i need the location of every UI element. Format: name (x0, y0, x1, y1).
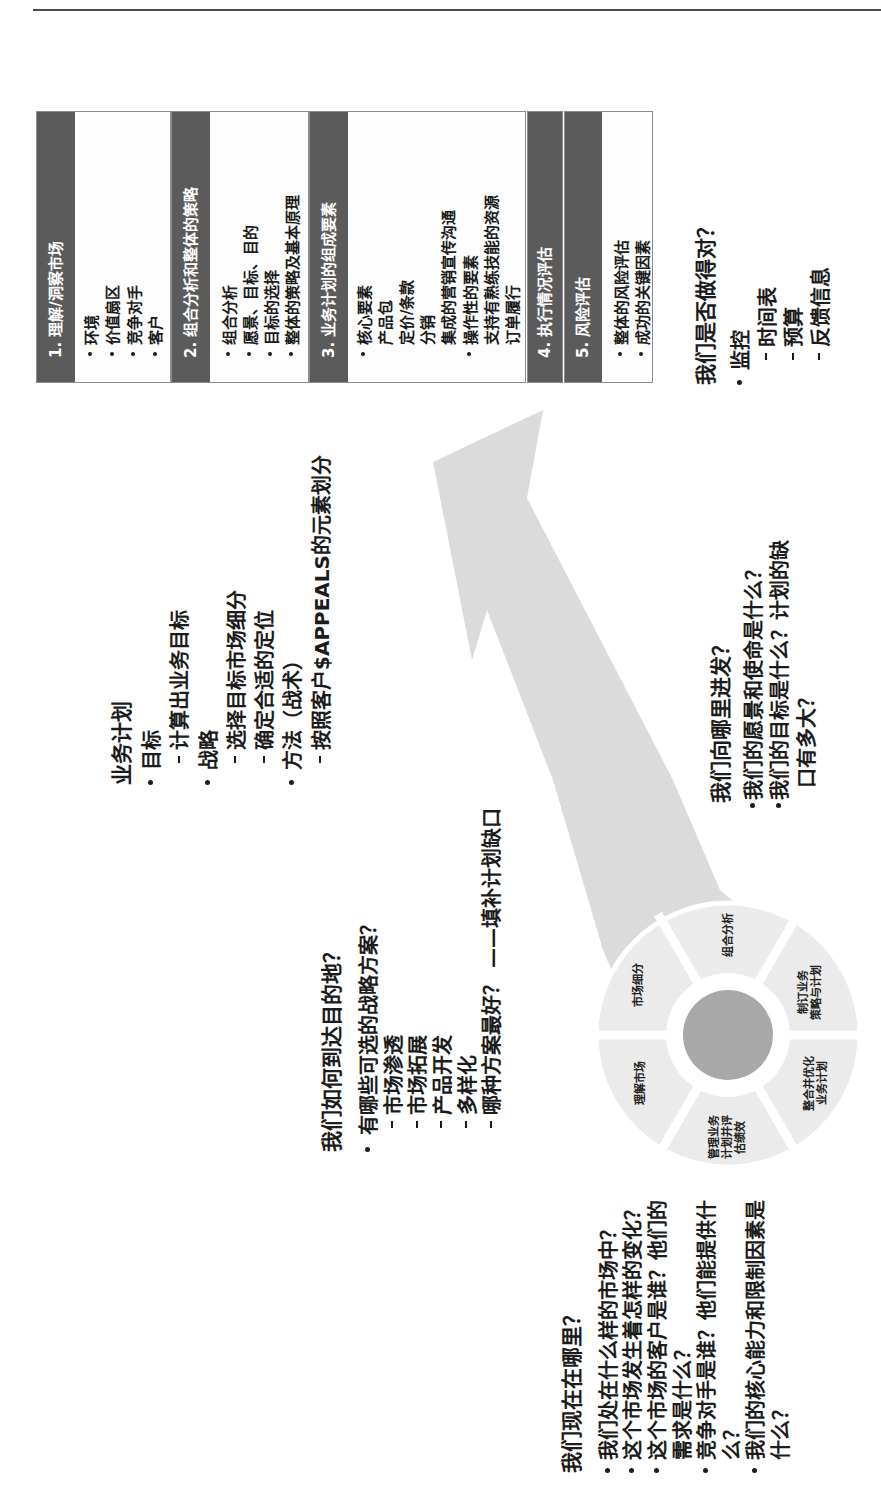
item-text: 我们的愿景和使命是什么？ (738, 560, 767, 800)
question-list: 我们的愿景和使命是什么？ 我们的目标是什么？计划的缺 口有多大？ (739, 540, 819, 808)
sub-item: 确定合适的定位 (249, 455, 277, 785)
sub-item: 市场拓展 (404, 808, 429, 1152)
where-are-we-now-block: 我们现在在哪里？ 我们处在什么样的市场中？ 这个市场发生着怎样的变化？ 这个市场… (560, 1200, 792, 1473)
item-text: 口有多大？ (791, 688, 820, 788)
bullet-icon (289, 352, 293, 356)
step-header: 3. 业务计划的组成要素 (310, 112, 348, 382)
bullet-icon (467, 352, 471, 356)
dash-icon (440, 1121, 442, 1128)
step-item-continuation: 分销 (416, 112, 437, 356)
rotated-figure: 组合分析 制订业务 策略与计划 整合并优化 业务计划 管理业务 计划并评 估绩效… (0, 0, 881, 1492)
dash-icon (465, 1121, 467, 1128)
bullet-icon (605, 1468, 610, 1473)
step-header: 4. 执行情况评估 (528, 112, 562, 382)
step-item: 价值扇区 (101, 112, 123, 356)
list-item: 这个市场发生着怎样的变化？ (620, 1200, 645, 1473)
step-item: 成功的关键因素 (631, 112, 652, 356)
sub-item: 按照客户$APPEALS的元素划分 (306, 455, 334, 785)
step-item: 客户 (144, 112, 166, 356)
list-item: 目标 (136, 455, 164, 785)
question-list: 有哪些可选的战略方案？ 市场渗透 市场拓展 产品开发 多样化 哪种方案最好？ —… (355, 808, 503, 1152)
bullet-icon (618, 352, 622, 356)
bullet-icon (110, 352, 114, 356)
step-header: 2. 组合分析和整体的策略 (172, 112, 210, 382)
bullet-icon (365, 1147, 370, 1152)
list-item-continuation: 口有多大？ (792, 540, 819, 808)
item-text: 方法（战术） (277, 650, 306, 770)
dash-icon (416, 1121, 418, 1128)
item-text: 计算出业务目标 (164, 610, 193, 750)
wheel-label-develop-strategy: 制订业务 策略与计划 (797, 965, 823, 1020)
bullet-icon (148, 780, 153, 785)
document-page: 组合分析 制订业务 策略与计划 整合并优化 业务计划 管理业务 计划并评 估绩效… (0, 0, 881, 1492)
step-body: 环境 价值扇区 竞争对手 客户 (75, 112, 166, 382)
block-title: 我们如何到达目的地？ (320, 808, 345, 1152)
block-title: 业务计划 (108, 455, 136, 785)
step-item-continuation: 产品包 (374, 112, 395, 356)
bullet-icon (289, 780, 294, 785)
sub-item: 选择目标市场细分 (221, 455, 249, 785)
step-item: 目标的选择 (260, 112, 281, 356)
bullet-icon (205, 780, 210, 785)
step-item-continuation: 定价/条款 (395, 112, 416, 356)
list-item-continuation: 么？ (718, 1200, 743, 1473)
item-text: 我们的目标是什么？计划的缺 (764, 540, 793, 800)
block-title: 我们现在在哪里？ (560, 1200, 585, 1473)
list-item: 我们的核心能力和限制因素是 (743, 1200, 768, 1473)
bullet-icon (247, 352, 251, 356)
item-text: 哪种方案最好？ ——填补计划缺口 (476, 808, 505, 1115)
sub-item: 计算出业务目标 (165, 455, 193, 785)
dash-icon (319, 756, 321, 763)
step-header: 1. 理解/洞察市场 (37, 112, 75, 382)
bullet-icon (226, 352, 230, 356)
step-item-continuation: 集成的营销宣传沟通 (437, 112, 458, 356)
bullet-icon (639, 352, 643, 356)
bullet-icon (629, 1468, 634, 1473)
step-item: 愿景、目标、目的 (239, 112, 260, 356)
step-item: 核心要素 (353, 112, 374, 356)
step-item-continuation: 支持有熟练技能的资源 (480, 112, 501, 356)
wheel-label-understand-market: 理解市场 (634, 1061, 647, 1105)
item-text: 战略 (193, 730, 222, 770)
process-steps-panel: 1. 理解/洞察市场 环境 价值扇区 竞争对手 客户 2. 组合分析和整体的策略… (0, 111, 881, 383)
item-text: 目标 (136, 730, 165, 770)
step-box-5: 5. 风险评估 整体的风险评估 成功的关键因素 (564, 111, 653, 383)
step-box-4: 4. 执行情况评估 (527, 111, 563, 383)
list-item: 我们处在什么样的市场中？ (595, 1200, 620, 1473)
bullet-icon (703, 1468, 708, 1473)
list-item: 方法（战术） (278, 455, 306, 785)
question-list: 我们处在什么样的市场中？ 这个市场发生着怎样的变化？ 这个市场的客户是谁？他们的… (595, 1200, 792, 1473)
bullet-icon (88, 352, 92, 356)
wheel-label-manage-evaluate: 管理业务 计划并评 估绩效 (708, 1115, 747, 1159)
bullet-icon (776, 803, 781, 808)
item-text: 确定合适的定位 (249, 610, 278, 750)
step-item: 组合分析 (218, 112, 239, 356)
wheel-label-integrate-optimize: 整合并优化 业务计划 (803, 1056, 829, 1111)
step-item-continuation: 订单履行 (501, 112, 522, 356)
block-title: 我们向哪里进发？ (708, 540, 734, 808)
step-item: 整体的策略及基本原理 (281, 112, 302, 356)
plan-list: 目标 计算出业务目标 战略 选择目标市场细分 确定合适的定位 方法（战术） 按照… (136, 455, 334, 785)
item-text: 按照客户$APPEALS的元素划分 (306, 455, 335, 750)
wheel-hub (683, 990, 773, 1080)
sub-item: 产品开发 (429, 808, 454, 1152)
bullet-icon (131, 352, 135, 356)
step-header: 5. 风险评估 (565, 112, 602, 382)
item-text: 选择目标市场细分 (221, 590, 250, 750)
dash-icon (490, 1121, 492, 1128)
list-item: 竞争对手是谁？他们能提供什 (693, 1200, 718, 1473)
sub-item: 哪种方案最好？ ——填补计划缺口 (478, 808, 503, 1152)
wheel-label-portfolio-analysis: 组合分析 (722, 913, 735, 957)
bullet-icon (750, 803, 755, 808)
where-are-we-going-block: 我们向哪里进发？ 我们的愿景和使命是什么？ 我们的目标是什么？计划的缺 口有多大… (708, 540, 819, 808)
step-box-1: 1. 理解/洞察市场 环境 价值扇区 竞争对手 客户 (36, 111, 171, 383)
dash-icon (263, 756, 265, 763)
business-plan-block: 业务计划 目标 计算出业务目标 战略 选择目标市场细分 确定合适的定位 方法（战… (108, 455, 334, 785)
step-body: 组合分析 愿景、目标、目的 目标的选择 整体的策略及基本原理 (210, 112, 302, 382)
bullet-icon (268, 352, 272, 356)
wheel-label-market-segmentation: 市场细分 (632, 963, 645, 1007)
step-item: 竞争对手 (123, 112, 145, 356)
step-body: 整体的风险评估 成功的关键因素 (602, 112, 652, 382)
step-item: 环境 (80, 112, 102, 356)
bullet-icon (153, 352, 157, 356)
